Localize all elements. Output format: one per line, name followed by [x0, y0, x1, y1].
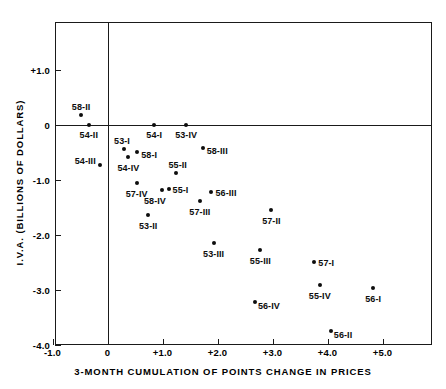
data-point-label: 54-II — [80, 130, 99, 140]
scatter-chart: -1.00+1.0+2.0+3.0+4.0+5.0 +1.00-1.0-2.0-… — [0, 0, 446, 389]
data-point — [209, 190, 213, 194]
data-point-label: 58-I — [141, 150, 157, 160]
x-tick — [328, 339, 329, 345]
data-point — [122, 147, 126, 151]
x-tick — [273, 339, 274, 345]
data-point-label: 57-III — [189, 207, 210, 217]
x-tick-label: +3.0 — [263, 347, 283, 358]
data-point-label: 54-III — [75, 156, 96, 166]
y-tick-label: -3.0 — [33, 285, 50, 296]
data-point — [98, 163, 102, 167]
y-tick-label: -2.0 — [33, 230, 50, 241]
data-point — [198, 199, 202, 203]
data-point-label: 58-III — [207, 146, 228, 156]
data-point — [201, 146, 205, 150]
data-point-label: 58-II — [72, 102, 91, 112]
data-point — [146, 213, 150, 217]
data-point — [329, 329, 333, 333]
data-point — [167, 187, 171, 191]
x-tick — [108, 339, 109, 345]
data-point — [253, 300, 257, 304]
data-point — [126, 155, 130, 159]
x-tick — [53, 339, 54, 345]
data-point-label: 57-II — [262, 216, 281, 226]
data-point — [312, 260, 316, 264]
y-tick — [55, 70, 61, 71]
y-tick — [55, 290, 61, 291]
zero-horizontal-axis — [55, 125, 432, 126]
data-point-label: 53-II — [139, 221, 158, 231]
data-point-label: 58-IV — [144, 196, 166, 206]
data-point-label: 57-I — [318, 258, 334, 268]
x-tick-label: +5.0 — [373, 347, 393, 358]
y-tick — [55, 345, 61, 346]
data-point — [160, 188, 164, 192]
data-point-label: 53-IV — [175, 130, 197, 140]
x-tick — [218, 339, 219, 345]
x-tick — [163, 339, 164, 345]
data-point — [135, 150, 139, 154]
data-point-label: 56-I — [365, 294, 381, 304]
data-point-label: 53-I — [114, 136, 130, 146]
y-tick-label: -4.0 — [33, 340, 50, 351]
x-axis-title: 3-MONTH CUMULATION OF POINTS CHANGE IN P… — [0, 366, 446, 377]
data-point-label: 55-IV — [309, 291, 331, 301]
data-point-label: 54-I — [146, 130, 162, 140]
y-tick-label: 0 — [45, 120, 50, 131]
x-tick-label: +1.0 — [153, 347, 173, 358]
data-point-label: 55-II — [168, 160, 187, 170]
data-point-label: 54-IV — [117, 163, 139, 173]
data-point — [258, 248, 262, 252]
y-axis-title: I.V.A. (BILLIONS OF DOLLARS) — [14, 68, 25, 298]
x-tick-label: 0 — [105, 347, 110, 358]
data-point — [152, 123, 156, 127]
y-tick — [55, 180, 61, 181]
x-tick — [383, 339, 384, 345]
y-tick — [55, 235, 61, 236]
x-tick-label: +2.0 — [208, 347, 228, 358]
data-point-label: 55-III — [250, 256, 271, 266]
data-point — [184, 123, 188, 127]
data-point-label: 55-I — [173, 185, 189, 195]
data-point-label: 56-IV — [258, 301, 280, 311]
data-point-label: 56-III — [215, 188, 236, 198]
data-point-label: 53-III — [203, 249, 224, 259]
data-point — [174, 171, 178, 175]
data-point-label: 56-II — [334, 330, 353, 340]
data-point — [212, 241, 216, 245]
data-point — [135, 181, 139, 185]
data-point — [371, 286, 375, 290]
data-point — [87, 123, 91, 127]
zero-vertical-axis — [108, 22, 109, 345]
y-tick-label: -1.0 — [33, 175, 50, 186]
data-point — [269, 208, 273, 212]
y-tick-label: +1.0 — [30, 65, 50, 76]
x-tick-label: +4.0 — [318, 347, 338, 358]
y-tick — [55, 125, 61, 126]
data-point — [318, 283, 322, 287]
data-point — [79, 113, 83, 117]
